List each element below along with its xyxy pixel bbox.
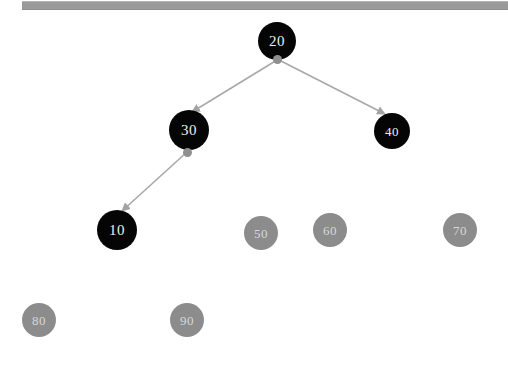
tree-edges-canvas bbox=[0, 0, 508, 374]
tree-node-label: 10 bbox=[109, 223, 125, 238]
tree-node-70[interactable]: 70 bbox=[443, 213, 477, 247]
edge-anchor-dot bbox=[183, 148, 192, 157]
tree-node-label: 30 bbox=[181, 123, 197, 138]
tree-node-label: 20 bbox=[269, 34, 285, 49]
edge-anchor-dot bbox=[273, 55, 282, 64]
tree-node-label: 40 bbox=[385, 125, 399, 138]
tree-node-label: 90 bbox=[180, 314, 194, 327]
tree-node-50[interactable]: 50 bbox=[244, 216, 278, 250]
tree-node-90[interactable]: 90 bbox=[170, 303, 204, 337]
tree-edge bbox=[279, 60, 385, 114]
tree-node-label: 80 bbox=[32, 314, 46, 327]
tree-node-label: 60 bbox=[323, 224, 337, 237]
tree-node-10[interactable]: 10 bbox=[97, 210, 137, 250]
tree-visualization-app: 203040105060708090 bbox=[0, 0, 508, 374]
tree-node-60[interactable]: 60 bbox=[313, 213, 347, 247]
tree-node-80[interactable]: 80 bbox=[22, 303, 56, 337]
tree-node-label: 50 bbox=[254, 227, 268, 240]
tree-edge bbox=[122, 152, 187, 211]
tree-node-40[interactable]: 40 bbox=[374, 113, 410, 149]
edge-layer bbox=[122, 60, 385, 211]
tree-edge bbox=[192, 60, 277, 112]
tree-node-label: 70 bbox=[453, 224, 467, 237]
tree-node-30[interactable]: 30 bbox=[169, 110, 209, 150]
